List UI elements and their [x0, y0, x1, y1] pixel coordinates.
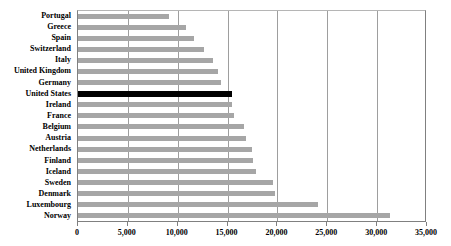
bar-row — [78, 77, 425, 88]
axis-tick-label: 20,000 — [265, 228, 287, 237]
bar — [78, 147, 252, 152]
axis-tick — [127, 222, 128, 226]
axis-tick-label: 35,000 — [415, 228, 437, 237]
axis-tick-label: 30,000 — [365, 228, 387, 237]
category-label: Belgium — [0, 122, 74, 133]
category-label: Denmark — [0, 189, 74, 200]
bar-row — [78, 144, 425, 155]
axis-tick-label: 5,000 — [118, 228, 136, 237]
bar — [78, 25, 186, 30]
bar-row — [78, 177, 425, 188]
category-label: Finland — [0, 155, 74, 166]
bar — [78, 47, 204, 52]
bar — [78, 213, 390, 218]
bar — [78, 113, 234, 118]
bar — [78, 202, 318, 207]
axis-tick — [426, 222, 427, 226]
category-label: Sweden — [0, 177, 74, 188]
bar — [78, 136, 246, 141]
bar-row — [78, 121, 425, 132]
bar-row — [78, 66, 425, 77]
category-label: United Kingdom — [0, 66, 74, 77]
bar — [78, 69, 218, 74]
bar-row — [78, 210, 425, 221]
axis-tick — [276, 222, 277, 226]
category-label: Luxembourg — [0, 200, 74, 211]
category-label: Austria — [0, 133, 74, 144]
axis-tick — [177, 222, 178, 226]
chart-title — [0, 0, 451, 2]
bar — [78, 58, 213, 63]
category-label: Norway — [0, 211, 74, 222]
bar-row — [78, 88, 425, 99]
bar-row — [78, 188, 425, 199]
category-label: France — [0, 110, 74, 121]
axis-tick-label: 15,000 — [216, 228, 238, 237]
value-axis: 05,00010,00015,00020,00025,00030,00035,0… — [77, 222, 426, 246]
bar-row — [78, 166, 425, 177]
bar-row — [78, 33, 425, 44]
bar — [78, 124, 244, 129]
category-label: Italy — [0, 55, 74, 66]
category-label: Ireland — [0, 99, 74, 110]
bar-row — [78, 199, 425, 210]
bar-series — [78, 11, 425, 221]
category-label: Switzerland — [0, 43, 74, 54]
bar-row — [78, 44, 425, 55]
axis-tick — [326, 222, 327, 226]
bar — [78, 158, 253, 163]
bar-row — [78, 155, 425, 166]
bar-row — [78, 55, 425, 66]
bar — [78, 180, 273, 185]
axis-tick — [376, 222, 377, 226]
bar — [78, 102, 232, 107]
axis-tick — [227, 222, 228, 226]
axis-tick-label: 0 — [75, 228, 79, 237]
bar-row — [78, 99, 425, 110]
bar-row — [78, 22, 425, 33]
bar — [78, 80, 221, 85]
bar-row — [78, 11, 425, 22]
category-axis-labels: PortugalGreeceSpainSwitzerlandItalyUnite… — [0, 10, 74, 222]
category-label: United States — [0, 88, 74, 99]
bar-row — [78, 110, 425, 121]
category-label: Spain — [0, 32, 74, 43]
bar-chart: PortugalGreeceSpainSwitzerlandItalyUnite… — [0, 0, 451, 246]
category-label: Greece — [0, 21, 74, 32]
axis-tick-label: 10,000 — [166, 228, 188, 237]
plot-area — [77, 10, 426, 222]
axis-tick — [77, 222, 78, 226]
bar — [78, 169, 256, 174]
category-label: Iceland — [0, 166, 74, 177]
category-label: Netherlands — [0, 144, 74, 155]
bar-row — [78, 133, 425, 144]
category-label: Portugal — [0, 10, 74, 21]
bar-highlight — [78, 91, 232, 97]
bar — [78, 14, 169, 19]
bar — [78, 191, 275, 196]
axis-tick-label: 25,000 — [315, 228, 337, 237]
bar — [78, 36, 194, 41]
category-label: Germany — [0, 77, 74, 88]
